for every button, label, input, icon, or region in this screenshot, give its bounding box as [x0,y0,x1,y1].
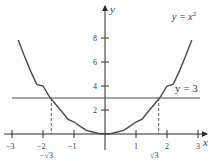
xtick-1: 1 [134,142,138,151]
xtick-m2: −2 [37,142,46,151]
y-axis-label: y [109,3,115,15]
ytick-4: 4 [93,82,97,91]
xtick-3: 3 [196,142,200,151]
xtick-m3: −3 [6,142,15,151]
neg-root-label: −√3 [40,151,53,160]
xtick-2: 2 [165,142,169,151]
ytick-8: 8 [93,34,97,43]
curve-label: y = x2 [171,10,197,22]
pos-root-label: √3 [150,151,158,160]
hline-label: y = 3 [175,82,198,94]
ytick-2: 2 [93,106,97,115]
ytick-6: 6 [93,58,97,67]
x-axis-label: x [202,136,208,148]
xtick-m1: −1 [68,142,77,151]
parabola-chart: y x y = x2 y = 3 8 6 4 2 −3 −2 −1 1 2 3 … [0,0,213,161]
